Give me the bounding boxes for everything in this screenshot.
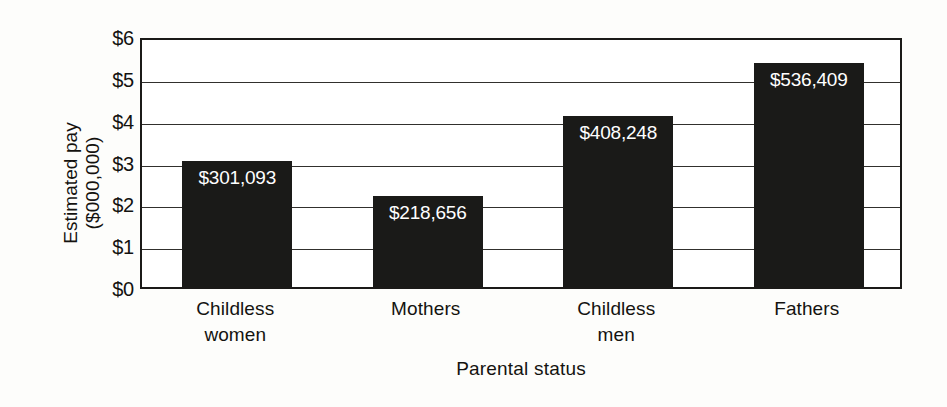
plot-area: $301,093$218,656$408,248$536,409	[140, 38, 902, 289]
bar-chart-figure: Estimated pay ($000,000) $0$1$2$3$4$5$6 …	[0, 0, 947, 407]
bar-3[interactable]: $536,409	[754, 63, 864, 287]
y-axis-tick-2: $2	[86, 194, 134, 217]
x-axis-label-0-line-0: Childless	[140, 296, 331, 322]
bar-value-label-1: $218,656	[373, 202, 483, 224]
x-axis-title: Parental status	[140, 358, 902, 380]
y-axis-tick-4: $4	[86, 110, 134, 133]
bar-1[interactable]: $218,656	[373, 196, 483, 287]
bar-value-label-2: $408,248	[563, 122, 673, 144]
x-axis-label-3: Fathers	[712, 296, 903, 322]
x-axis-label-0: Childlesswomen	[140, 296, 331, 347]
y-axis-title-line-1: Estimated pay	[60, 122, 82, 244]
x-axis-category-labels: ChildlesswomenMothersChildlessmenFathers	[140, 296, 902, 352]
y-axis-tick-0: $0	[86, 278, 134, 301]
x-axis-label-0-line-1: women	[140, 322, 331, 348]
y-axis-tick-labels: $0$1$2$3$4$5$6	[86, 38, 134, 289]
y-axis-tick-3: $3	[86, 152, 134, 175]
bars-layer: $301,093$218,656$408,248$536,409	[142, 40, 900, 287]
bar-2[interactable]: $408,248	[563, 116, 673, 287]
x-axis-label-2: Childlessmen	[521, 296, 712, 347]
x-axis-label-1-line-0: Mothers	[331, 296, 522, 322]
bar-value-label-0: $301,093	[182, 167, 292, 189]
y-axis-tick-6: $6	[86, 27, 134, 50]
bar-value-label-3: $536,409	[754, 69, 864, 91]
x-axis-label-1: Mothers	[331, 296, 522, 322]
x-axis-label-3-line-0: Fathers	[712, 296, 903, 322]
x-axis-label-2-line-0: Childless	[521, 296, 712, 322]
y-axis-tick-1: $1	[86, 236, 134, 259]
bar-0[interactable]: $301,093	[182, 161, 292, 287]
y-axis-tick-5: $5	[86, 68, 134, 91]
x-axis-label-2-line-1: men	[521, 322, 712, 348]
